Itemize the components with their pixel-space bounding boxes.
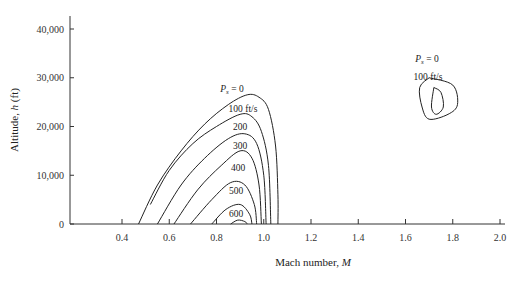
x-tick-label: 1.0 <box>258 232 271 243</box>
contour-label: Ps = 0 <box>219 84 244 96</box>
x-axis-label: Mach number, M <box>275 256 351 268</box>
y-tick-label: 10,000 <box>37 170 65 181</box>
y-axis-label: Altitude, h (ft) <box>8 88 21 152</box>
x-tick-label: 1.8 <box>447 232 460 243</box>
contour-label: 100 ft/s <box>229 104 258 114</box>
y-tick-label: 20,000 <box>37 121 65 132</box>
contour-label: Ps = 0 <box>414 54 439 66</box>
specific-excess-power-chart: 010,00020,00030,00040,000 Altitude, h (f… <box>0 0 525 281</box>
contour-label: 200 <box>233 122 248 132</box>
x-axis: 0.40.60.81.01.21.41.61.82.0 Mach number,… <box>70 219 506 268</box>
y-tick-label: 30,000 <box>37 72 65 83</box>
x-tick-label: 1.2 <box>305 232 318 243</box>
contour-curves <box>139 78 458 224</box>
contour-label: 600 <box>229 209 244 219</box>
x-tick-label: 1.4 <box>352 232 365 243</box>
contour-line <box>231 220 248 224</box>
contour-label: 500 <box>229 186 244 196</box>
x-tick-label: 0.6 <box>163 232 176 243</box>
contour-label: 300 <box>233 141 248 151</box>
contour-line <box>191 181 257 224</box>
contour-labels: Ps = 0100 ft/s200300400500600Ps = 0100 f… <box>219 54 442 219</box>
x-tick-label: 0.4 <box>116 232 129 243</box>
contour-label: 100 ft/s <box>414 72 443 82</box>
contour-line <box>157 134 266 224</box>
x-tick-label: 1.6 <box>399 232 412 243</box>
contour-label: 400 <box>231 163 246 173</box>
x-tick-label: 0.8 <box>210 232 223 243</box>
x-tick-label: 2.0 <box>494 232 507 243</box>
y-axis: 010,00020,00030,00040,000 Altitude, h (f… <box>8 16 74 230</box>
contour-line <box>431 88 443 115</box>
y-tick-label: 0 <box>59 219 64 230</box>
y-tick-label: 40,000 <box>37 24 65 35</box>
